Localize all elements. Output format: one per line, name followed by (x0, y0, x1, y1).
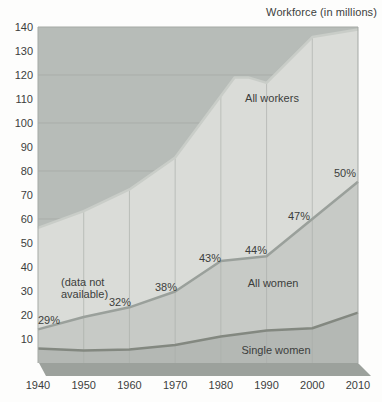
x-tick-label: 1960 (117, 379, 141, 391)
note-line: (data not (61, 276, 104, 288)
y-tick-label: 40 (21, 261, 33, 273)
percent-label: 44% (245, 244, 267, 256)
y-tick-label: 130 (15, 45, 33, 57)
x-tick-label: 1940 (26, 379, 50, 391)
y-tick-label: 100 (15, 117, 33, 129)
y-tick-label: 120 (15, 69, 33, 81)
percent-label: 47% (288, 210, 310, 222)
y-tick-label: 10 (21, 333, 33, 345)
y-tick-label: 110 (15, 93, 33, 105)
x-tick-label: 1970 (163, 379, 187, 391)
percent-label: 29% (38, 314, 60, 326)
series-label: All workers (245, 92, 299, 104)
series-label: Single women (241, 344, 310, 356)
page: Workforce (in millions) 1020304050607080… (0, 0, 382, 402)
percent-label: 38% (155, 281, 177, 293)
chart-floor (39, 363, 371, 376)
percent-label: 43% (199, 252, 221, 264)
percent-label: 32% (109, 296, 131, 308)
y-tick-label: 60 (21, 213, 33, 225)
y-tick-label: 70 (21, 189, 33, 201)
x-tick-label: 1990 (254, 379, 278, 391)
y-tick-label: 30 (21, 285, 33, 297)
x-tick-label: 2000 (300, 379, 324, 391)
percent-label: 50% (334, 167, 356, 179)
x-tick-label: 1950 (71, 379, 95, 391)
note-line: available) (61, 288, 108, 300)
y-tick-label: 20 (21, 309, 33, 321)
y-tick-label: 140 (15, 21, 33, 33)
series-label: All women (248, 277, 299, 289)
x-tick-label: 2010 (346, 379, 370, 391)
y-tick-label: 50 (21, 237, 33, 249)
y-tick-label: 90 (21, 141, 33, 153)
y-tick-label: 80 (21, 165, 33, 177)
workforce-area-chart: 1020304050607080901001101201301401940195… (0, 0, 382, 402)
x-tick-label: 1980 (209, 379, 233, 391)
